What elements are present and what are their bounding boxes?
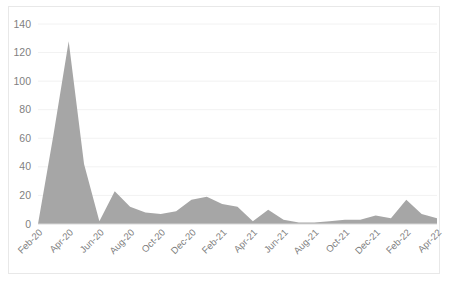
- x-axis-tick-label: Feb-20: [15, 227, 44, 256]
- series-area-group: [38, 41, 437, 224]
- y-axis-tick-label: 100: [13, 75, 31, 87]
- x-axis-tick-label: Oct-21: [323, 227, 351, 255]
- y-axis-tick-label: 0: [25, 218, 31, 230]
- y-axis-tick-labels: 020406080100120140: [13, 18, 31, 230]
- y-axis-tick-label: 80: [19, 103, 31, 115]
- y-axis-tick-label: 40: [19, 160, 31, 172]
- x-axis-tick-labels: Feb-20Apr-20Jun-20Aug-20Oct-20Dec-20Feb-…: [15, 227, 443, 256]
- y-axis-tick-label: 20: [19, 189, 31, 201]
- series-area: [38, 41, 437, 224]
- x-axis-tick-label: Jun-20: [77, 227, 105, 255]
- chart-svg: 020406080100120140 Feb-20Apr-20Jun-20Aug…: [0, 0, 459, 281]
- x-axis-tick-label: Dec-21: [353, 227, 382, 256]
- x-axis-tick-label: Jun-21: [262, 227, 290, 255]
- x-axis-tick-label: Dec-20: [168, 227, 197, 256]
- x-axis-tick-label: Aug-21: [291, 227, 320, 256]
- y-axis-tick-label: 120: [13, 46, 31, 58]
- x-axis-tick-label: Feb-21: [199, 227, 228, 256]
- y-axis-tick-label: 60: [19, 132, 31, 144]
- x-axis-tick-label: Aug-20: [107, 227, 136, 256]
- x-axis-tick-label: Apr-20: [47, 227, 75, 255]
- x-axis-tick-label: Apr-21: [231, 227, 259, 255]
- area-chart: 020406080100120140 Feb-20Apr-20Jun-20Aug…: [0, 0, 459, 281]
- x-axis-tick-label: Feb-22: [384, 227, 413, 256]
- x-axis-tick-label: Apr-22: [415, 227, 443, 255]
- gridlines-group: [38, 24, 437, 195]
- y-axis-tick-label: 140: [13, 18, 31, 30]
- x-axis-tick-label: Oct-20: [139, 227, 167, 255]
